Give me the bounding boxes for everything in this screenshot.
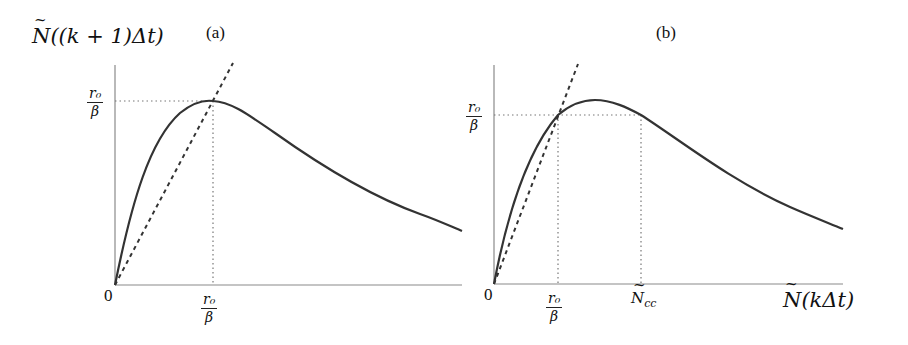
panel-a-plot	[115, 63, 462, 285]
panel-a-y-tick-r0-beta: r₀ β	[87, 86, 103, 119]
panel-b-y-tick-r0-beta: r₀ β	[466, 100, 482, 133]
panel-b-curve	[494, 100, 843, 284]
panel-b-identity-line	[494, 64, 578, 284]
panel-b-x-tick-r0-beta: r₀ β	[546, 291, 562, 324]
panel-b-origin-label: 0	[484, 285, 493, 305]
y-axis-title: N((k + 1)Δt)	[32, 24, 164, 48]
panel-a-curve	[115, 101, 462, 285]
x-axis-title-base: N	[783, 288, 801, 312]
x-axis-title-rest: (kΔt)	[801, 288, 854, 312]
panel-a-title: (a)	[206, 23, 225, 43]
panel-a-identity-line	[115, 63, 233, 285]
panel-b-x-tick-ncc: Ncc	[631, 289, 656, 310]
figure-canvas	[0, 0, 908, 345]
panel-a-origin-label: 0	[104, 286, 113, 306]
x-axis-title: N(kΔt)	[783, 288, 854, 312]
y-axis-title-base: N	[32, 24, 50, 48]
y-axis-title-rest: ((k + 1)Δt)	[50, 24, 163, 48]
panel-b-title: (b)	[656, 23, 676, 43]
panel-b-plot	[494, 64, 843, 284]
panel-a-x-tick-r0-beta: r₀ β	[201, 292, 217, 325]
